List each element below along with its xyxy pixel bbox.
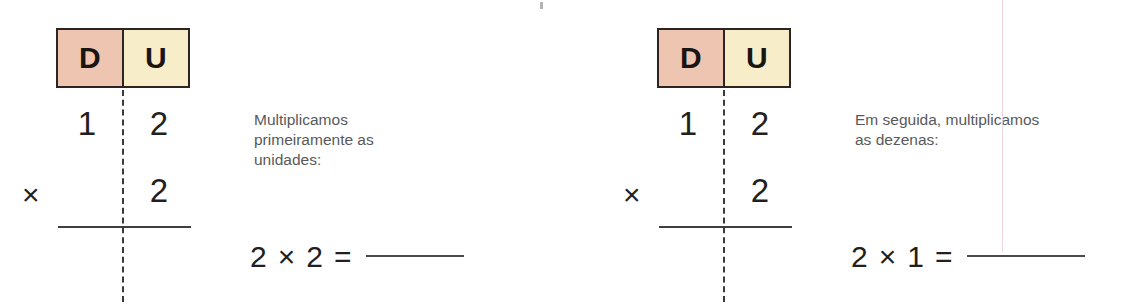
multiplier-ones-digit: 2	[729, 172, 791, 210]
multiplication-operator-symbol: ×	[623, 178, 641, 212]
equation-left-operand: 2	[250, 240, 267, 274]
equation-right-operand: 1	[907, 240, 924, 274]
multiplication-step-panel-2: D U 1 2 × 2 Em seguida, multiplicamos as…	[601, 0, 1133, 305]
sum-horizontal-rule	[659, 226, 792, 228]
equation-line-1: 2 × 2 =	[250, 240, 464, 274]
equation-answer-blank[interactable]	[366, 255, 464, 257]
equation-operator: ×	[278, 240, 296, 274]
equation-equals-sign: =	[334, 240, 352, 274]
sum-horizontal-rule	[58, 226, 191, 228]
step-instruction-text: Em seguida, multiplicamos as dezenas:	[855, 110, 1045, 150]
place-value-header-2: D U	[657, 28, 791, 88]
multiplication-operator-symbol: ×	[22, 178, 40, 212]
multiplier-ones-digit: 2	[128, 172, 190, 210]
place-value-cell-tens: D	[659, 30, 725, 86]
column-separator-dashed-line	[723, 90, 725, 302]
page-margin-guide-line	[1002, 0, 1003, 252]
equation-line-2: 2 × 1 =	[851, 240, 1085, 274]
place-value-cell-ones: U	[725, 30, 789, 86]
column-separator-dashed-line	[122, 90, 124, 302]
place-value-header-1: D U	[56, 28, 190, 88]
equation-operator: ×	[879, 240, 897, 274]
place-value-cell-tens: D	[58, 30, 124, 86]
multiplicand-ones-digit: 2	[729, 105, 791, 143]
equation-left-operand: 2	[851, 240, 868, 274]
multiplicand-tens-digit: 1	[657, 105, 719, 143]
step-instruction-text: Multiplicamos primeiramente as unidades:	[254, 110, 444, 170]
equation-answer-blank[interactable]	[967, 255, 1085, 257]
worksheet-page: { "colors": { "tens_cell_bg": "#edc5b0",…	[0, 0, 1133, 305]
multiplication-step-panel-1: D U 1 2 × 2 Multiplicamos primeiramente …	[0, 0, 566, 305]
place-value-cell-ones: U	[124, 30, 188, 86]
equation-equals-sign: =	[935, 240, 953, 274]
equation-right-operand: 2	[306, 240, 323, 274]
scan-artifact-speck	[540, 2, 543, 9]
multiplicand-ones-digit: 2	[128, 105, 190, 143]
multiplicand-tens-digit: 1	[56, 105, 118, 143]
